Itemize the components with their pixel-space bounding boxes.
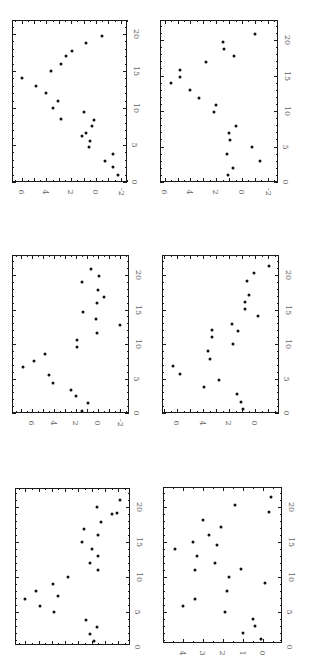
- data-point: [231, 166, 234, 169]
- x-tick: [280, 584, 282, 585]
- y-tick: [203, 20, 204, 24]
- data-point: [44, 352, 47, 355]
- x-tick: [12, 372, 14, 373]
- data-point: [117, 173, 120, 176]
- x-tick: [278, 542, 282, 543]
- y-tick-label: 6: [159, 189, 167, 194]
- x-tick: [275, 310, 279, 311]
- data-point: [51, 382, 54, 385]
- data-point: [96, 506, 99, 509]
- y-tick: [193, 487, 194, 489]
- y-tick: [171, 411, 172, 413]
- data-point: [76, 338, 79, 341]
- x-tick: [162, 316, 164, 317]
- y-tick: [85, 643, 86, 645]
- y-tick: [263, 487, 264, 491]
- y-tick: [273, 487, 274, 489]
- x-tick: [127, 365, 129, 366]
- y-tick: [273, 641, 274, 643]
- x-tick: [163, 633, 165, 634]
- y-tick: [248, 180, 249, 182]
- x-tick: [127, 323, 129, 324]
- x-tick: [163, 584, 165, 585]
- y-tick: [109, 255, 110, 259]
- x-tick: [277, 323, 279, 324]
- x-tick: [275, 413, 279, 414]
- y-tick: [243, 639, 244, 643]
- y-tick: [233, 487, 234, 489]
- y-tick: [184, 411, 185, 413]
- y-tick: [102, 20, 103, 22]
- x-tick: [162, 406, 164, 407]
- data-point: [97, 555, 100, 558]
- x-tick: [162, 261, 164, 262]
- y-tick: [34, 178, 35, 182]
- y-tick: [197, 180, 198, 182]
- y-tick-label: 4: [198, 420, 206, 425]
- x-tick: [128, 640, 130, 641]
- y-tick: [183, 639, 184, 643]
- y-tick: [190, 20, 191, 24]
- x-tick: [163, 493, 165, 494]
- data-point: [90, 267, 93, 270]
- y-tick: [177, 409, 178, 413]
- y-tick: [25, 488, 26, 492]
- x-tick: [280, 605, 282, 606]
- y-tick: [65, 409, 66, 413]
- data-point: [80, 409, 83, 412]
- y-tick: [16, 255, 17, 257]
- y-tick: [49, 411, 50, 413]
- y-tick: [229, 255, 230, 259]
- x-tick: [126, 507, 130, 508]
- y-tick: [15, 20, 16, 22]
- y-tick: [32, 255, 33, 259]
- x-tick: [128, 500, 130, 501]
- x-tick: [12, 101, 14, 102]
- data-point: [119, 323, 122, 326]
- x-tick: [128, 549, 130, 550]
- data-point: [52, 583, 55, 586]
- y-tick: [65, 255, 66, 259]
- x-tick: [128, 605, 130, 606]
- y-tick: [216, 409, 217, 413]
- x-tick: [276, 83, 278, 84]
- y-tick: [27, 255, 28, 257]
- x-tick: [125, 379, 129, 380]
- x-tick: [127, 351, 129, 352]
- x-tick: [278, 612, 282, 613]
- x-tick: [128, 535, 130, 536]
- x-tick: [15, 493, 17, 494]
- x-tick-label: 15: [135, 537, 143, 547]
- x-tick: [12, 86, 14, 87]
- y-tick: [92, 488, 93, 492]
- y-tick: [184, 180, 185, 182]
- y-tick: [268, 255, 269, 259]
- x-tick-label: 15: [132, 66, 140, 76]
- y-tick: [197, 20, 198, 22]
- data-point: [239, 400, 242, 403]
- x-tick: [12, 365, 14, 366]
- y-tick: [125, 488, 126, 490]
- y-tick: [32, 643, 33, 645]
- x-tick: [163, 619, 165, 620]
- x-tick-label: 15: [283, 70, 291, 80]
- y-tick: [43, 255, 44, 259]
- x-tick: [274, 147, 278, 148]
- x-tick: [163, 514, 165, 515]
- x-tick: [127, 303, 129, 304]
- y-tick: [72, 488, 73, 490]
- data-point: [76, 345, 79, 348]
- x-tick: [127, 372, 129, 373]
- x-tick: [127, 399, 129, 400]
- x-tick: [276, 54, 278, 55]
- y-tick: [268, 20, 269, 24]
- x-tick: [160, 68, 162, 69]
- x-tick: [125, 56, 127, 57]
- x-tick: [12, 34, 16, 35]
- x-tick: [280, 521, 282, 522]
- x-tick: [12, 406, 14, 407]
- data-point: [252, 271, 255, 274]
- y-tick: [126, 411, 127, 413]
- data-point: [81, 311, 84, 314]
- y-tick: [65, 20, 66, 22]
